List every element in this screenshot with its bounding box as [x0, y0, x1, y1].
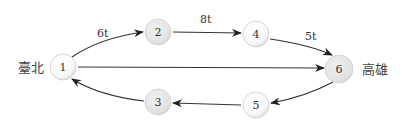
edge-3-1: [72, 79, 144, 101]
node-5: 5: [243, 92, 269, 118]
node-4: 4: [243, 21, 269, 47]
edge-label-2-4: 8t: [200, 13, 212, 26]
edge-label-4-6: 5t: [305, 30, 317, 43]
edge-5-3: [173, 103, 241, 105]
node-1: 1: [50, 54, 76, 80]
svg-text:6: 6: [336, 63, 343, 76]
edge-1-6: [78, 67, 324, 68]
edge-2-4: [173, 32, 241, 33]
edge-label-1-2: 6t: [97, 27, 109, 40]
svg-text:1: 1: [60, 61, 67, 74]
svg-text:2: 2: [155, 26, 162, 39]
node-6: 6: [325, 55, 353, 83]
node-2: 2: [145, 19, 171, 45]
edge-6-5: [271, 82, 333, 103]
route-diagram: 6t 8t 5t 1 2 4 6 5 3 臺北 高雄: [0, 0, 402, 135]
node-3: 3: [145, 89, 171, 115]
svg-text:5: 5: [253, 99, 260, 112]
city-label-kaohsiung: 高雄: [362, 62, 388, 77]
svg-text:4: 4: [253, 28, 260, 41]
city-label-taipei: 臺北: [18, 60, 44, 75]
svg-text:3: 3: [155, 96, 162, 109]
edge-4-6: [270, 39, 332, 55]
